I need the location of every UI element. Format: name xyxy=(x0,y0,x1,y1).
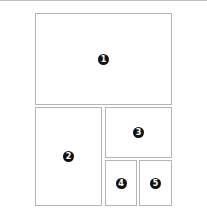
panel-number-badge: 4 xyxy=(116,178,127,189)
panel-number-badge: 5 xyxy=(150,178,161,189)
panel-5: 5 xyxy=(139,160,172,206)
panel-1: 1 xyxy=(35,13,172,105)
panel-number-badge: 2 xyxy=(63,151,74,162)
panel-4: 4 xyxy=(105,160,137,206)
panel-number-badge: 1 xyxy=(98,54,109,65)
top-divider xyxy=(0,0,207,1)
panel-3: 3 xyxy=(105,107,172,158)
panel-number-badge: 3 xyxy=(133,127,144,138)
panel-2: 2 xyxy=(35,107,102,206)
